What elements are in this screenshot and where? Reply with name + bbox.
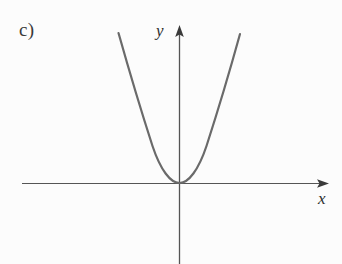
parabola-plot xyxy=(0,0,342,264)
figure-panel: c) y x xyxy=(0,0,342,264)
x-axis-label: x xyxy=(318,190,326,207)
panel-label: c) xyxy=(19,20,34,39)
y-axis-label: y xyxy=(156,22,164,39)
